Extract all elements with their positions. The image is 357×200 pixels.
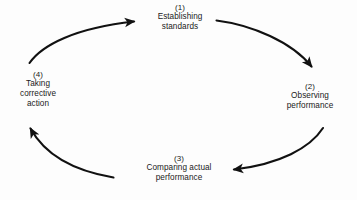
- node-3-line-2: performance: [113, 173, 245, 183]
- node-4-line-2: corrective: [6, 89, 70, 99]
- node-4-line-1: Taking: [6, 79, 70, 89]
- node-1-line-1: Establishing: [128, 12, 232, 22]
- node-1-line-2: standards: [128, 22, 232, 32]
- node-3-index: (3): [113, 154, 245, 163]
- node-4-index: (4): [6, 70, 70, 79]
- node-establishing-standards: (1) Establishing standards: [128, 3, 232, 32]
- cycle-diagram: (1) Establishing standards (2) Observing…: [0, 0, 357, 200]
- node-3-line-1: Comparing actual: [113, 163, 245, 173]
- arrow-2-to-3: [234, 128, 323, 170]
- node-2-line-2: performance: [266, 101, 354, 111]
- node-2-line-1: Observing: [266, 91, 354, 101]
- node-comparing-actual-performance: (3) Comparing actual performance: [113, 154, 245, 183]
- node-2-index: (2): [266, 82, 354, 91]
- node-4-line-3: action: [6, 99, 70, 109]
- node-observing-performance: (2) Observing performance: [266, 82, 354, 111]
- arrow-4-to-1: [30, 22, 135, 64]
- node-1-index: (1): [128, 3, 232, 12]
- arrow-3-to-4: [31, 129, 114, 178]
- node-taking-corrective-action: (4) Taking corrective action: [6, 70, 70, 108]
